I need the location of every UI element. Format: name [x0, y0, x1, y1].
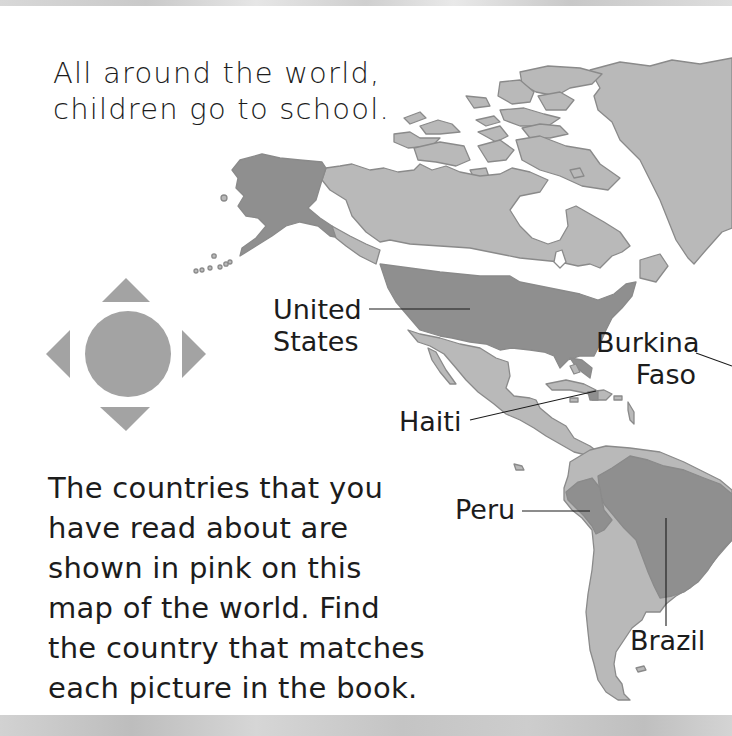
arctic-island — [500, 108, 560, 126]
leader-burkina-faso — [696, 353, 732, 366]
puerto-rico — [614, 396, 622, 400]
arctic-island — [538, 92, 574, 110]
arrow-left-icon[interactable] — [46, 330, 70, 378]
bottom-photo-strip — [0, 715, 732, 736]
label-burkina-faso: Burkina Faso — [596, 327, 696, 391]
arctic-island — [522, 124, 568, 138]
label-united-states: United States — [273, 294, 362, 358]
intro-heading: All around the world, children go to sch… — [53, 55, 390, 127]
arctic-island — [476, 116, 500, 126]
label-haiti: Haiti — [399, 406, 461, 438]
arrow-up-icon[interactable] — [102, 278, 150, 302]
center-button-icon[interactable] — [85, 311, 171, 397]
body-line: map of the world. Find — [48, 588, 425, 628]
arrow-down-icon[interactable] — [100, 407, 150, 431]
instructions-text: The countries that you have read about a… — [48, 468, 425, 708]
arctic-island — [414, 142, 470, 166]
label-peru: Peru — [455, 494, 515, 526]
jamaica — [570, 398, 578, 402]
intro-line: children go to school. — [53, 91, 390, 127]
falklands — [636, 666, 646, 672]
body-line: have read about are — [48, 508, 425, 548]
body-line: each picture in the book. — [48, 668, 425, 708]
alaska — [232, 154, 340, 256]
arrow-right-icon[interactable] — [182, 330, 206, 378]
maritimes — [640, 254, 668, 282]
arctic-island — [478, 140, 514, 162]
arctic-island — [478, 126, 508, 142]
arctic-island — [466, 96, 490, 108]
arctic-island — [404, 112, 426, 124]
arctic-island — [420, 120, 460, 134]
galapagos — [514, 464, 524, 470]
directional-pad — [44, 277, 208, 435]
body-line: The countries that you — [48, 468, 425, 508]
lesser-antilles — [628, 402, 634, 424]
body-line: the country that matches — [48, 628, 425, 668]
label-brazil: Brazil — [630, 625, 705, 657]
intro-line: All around the world, — [53, 55, 390, 91]
body-line: shown in pink on this — [48, 548, 425, 588]
